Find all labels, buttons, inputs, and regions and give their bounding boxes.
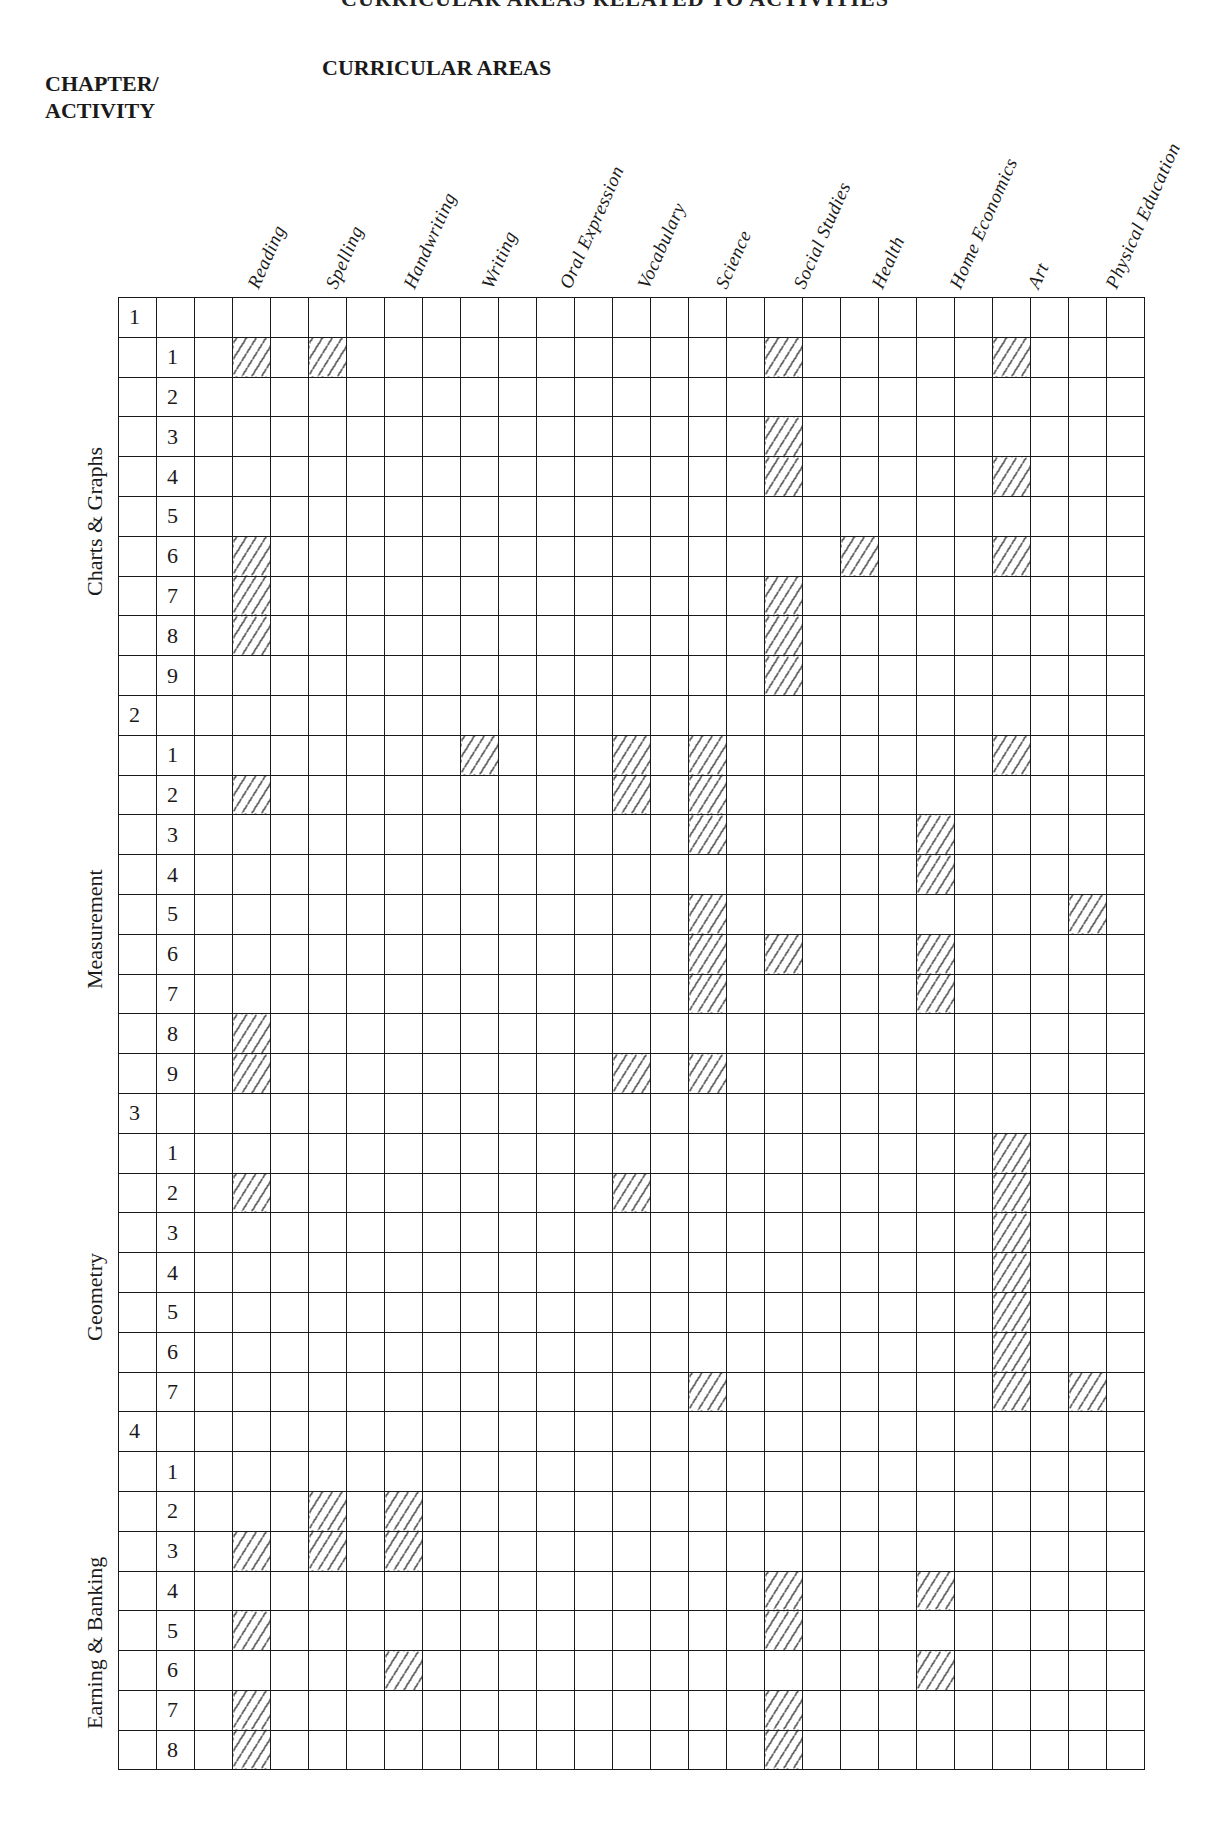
hatch-mark-reading (233, 775, 271, 815)
activity-row: 3 (119, 1531, 1145, 1571)
grid-cell (309, 695, 347, 735)
grid-cell (879, 1014, 917, 1054)
grid-cell (347, 1332, 385, 1372)
cell-spelling (309, 1014, 347, 1054)
grid-cell (499, 735, 537, 775)
grid-cell (1031, 576, 1069, 616)
grid-cell (195, 298, 233, 338)
grid-cell (271, 1133, 309, 1173)
cell-social-studies (765, 1491, 803, 1531)
grid-cell (955, 1690, 993, 1730)
grid-cell (575, 934, 613, 974)
cell-spelling (309, 1452, 347, 1492)
cell-art (993, 815, 1031, 855)
grid-cell (385, 695, 423, 735)
grid-cell (651, 417, 689, 457)
hatch-mark-home-economics (917, 815, 955, 855)
cell-health (841, 616, 879, 656)
activity-number: 2 (157, 775, 195, 815)
cell-reading (233, 1452, 271, 1492)
grid-cell (1107, 735, 1145, 775)
hatch-mark-science (689, 735, 727, 775)
grid-cell (689, 298, 727, 338)
grid-cell (803, 1014, 841, 1054)
grid-cell (575, 1491, 613, 1531)
activity-number: 5 (157, 1611, 195, 1651)
grid-cell (575, 894, 613, 934)
grid-cell (879, 934, 917, 974)
cell-art (993, 934, 1031, 974)
grid-cell (575, 1173, 613, 1213)
activity-row: 5 (119, 1292, 1145, 1332)
subject-label-art: Art (1023, 259, 1054, 292)
hatch-mark-art (993, 1133, 1031, 1173)
grid-cell (423, 1014, 461, 1054)
cell-vocabulary (613, 616, 651, 656)
cell-home-economics (917, 1014, 955, 1054)
cell-health (841, 775, 879, 815)
cell-spelling (309, 1372, 347, 1412)
hatch-mark-spelling (309, 337, 347, 377)
activity-row: 2 (119, 1173, 1145, 1213)
grid-cell (575, 1531, 613, 1571)
grid-cell (651, 695, 689, 735)
grid-cell (385, 298, 423, 338)
grid-cell (803, 1491, 841, 1531)
grid-cell (119, 1651, 157, 1691)
cell-reading (233, 934, 271, 974)
grid-cell (575, 1690, 613, 1730)
grid-cell (727, 934, 765, 974)
cell-science (689, 1253, 727, 1293)
grid-cell (575, 576, 613, 616)
cell-physical-education (1069, 417, 1107, 457)
grid-cell (727, 1372, 765, 1412)
grid-cell (385, 1412, 423, 1452)
activity-row: 4 (119, 1253, 1145, 1293)
grid-cell (119, 1173, 157, 1213)
grid-cell (119, 417, 157, 457)
grid-cell (119, 1014, 157, 1054)
cell-spelling (309, 1292, 347, 1332)
grid-cell (309, 1093, 347, 1133)
grid-cell (803, 1253, 841, 1293)
grid-cell (423, 457, 461, 497)
cell-reading (233, 1292, 271, 1332)
cell-science (689, 1651, 727, 1691)
grid-cell (347, 496, 385, 536)
grid-cell (651, 1332, 689, 1372)
cell-home-economics (917, 1292, 955, 1332)
grid-cell (271, 1452, 309, 1492)
activity-row: 5 (119, 1611, 1145, 1651)
grid-cell (1107, 1093, 1145, 1133)
grid-cell (651, 974, 689, 1014)
grid-cell (879, 337, 917, 377)
cell-health (841, 1332, 879, 1372)
cell-handwriting (385, 656, 423, 696)
grid-cell (651, 1571, 689, 1611)
cell-reading (233, 1571, 271, 1611)
grid-cell (575, 735, 613, 775)
grid-cell (727, 1611, 765, 1651)
grid-cell (955, 1253, 993, 1293)
cell-spelling (309, 377, 347, 417)
cell-home-economics (917, 1611, 955, 1651)
grid-cell (423, 1531, 461, 1571)
grid-cell (879, 1054, 917, 1094)
cell-vocabulary (613, 1611, 651, 1651)
grid-cell (1107, 1372, 1145, 1412)
grid-cell (727, 1531, 765, 1571)
activity-row: 5 (119, 496, 1145, 536)
grid-cell (347, 735, 385, 775)
subject-label-oral-expression: Oral Expression (555, 163, 629, 292)
grid-cell (423, 1133, 461, 1173)
grid-cell (347, 894, 385, 934)
grid-cell (575, 298, 613, 338)
grid-cell (1031, 815, 1069, 855)
cell-science (689, 1014, 727, 1054)
grid-cell (575, 377, 613, 417)
activity-row: 4 (119, 855, 1145, 895)
grid-cell (1107, 855, 1145, 895)
cell-physical-education (1069, 1014, 1107, 1054)
grid-cell (803, 417, 841, 457)
grid-cell (233, 1093, 271, 1133)
